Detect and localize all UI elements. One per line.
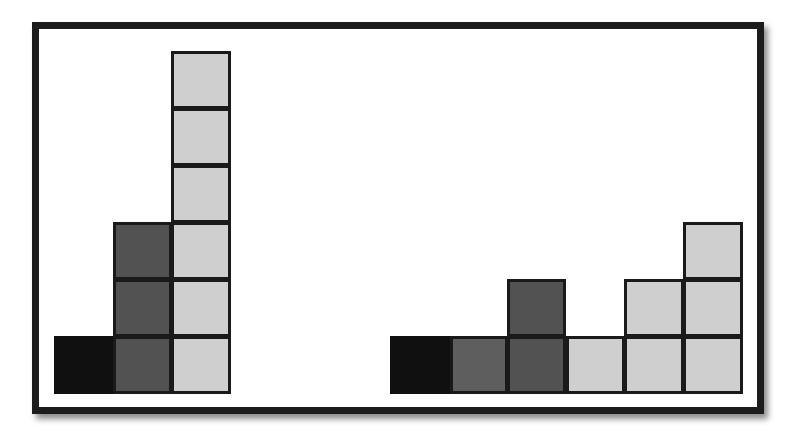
block-light-gray <box>171 222 231 280</box>
block-light-gray <box>683 222 743 280</box>
block-light-gray <box>624 336 684 394</box>
block-dark-gray <box>113 336 172 394</box>
block-light-gray <box>683 279 743 337</box>
block-light-gray <box>171 279 231 337</box>
block-dark-gray <box>113 222 172 280</box>
block-medium-gray <box>450 336 508 394</box>
block-light-gray <box>171 51 231 109</box>
block-dark-gray <box>507 279 566 337</box>
block-light-gray <box>171 165 231 223</box>
block-light-gray <box>624 279 684 337</box>
block-light-gray <box>566 336 625 394</box>
block-dark-gray <box>507 336 566 394</box>
block-light-gray <box>171 336 231 394</box>
block-light-gray <box>683 336 743 394</box>
block-black <box>390 336 450 394</box>
block-light-gray <box>171 108 231 166</box>
block-black <box>54 336 113 394</box>
block-dark-gray <box>113 279 172 337</box>
